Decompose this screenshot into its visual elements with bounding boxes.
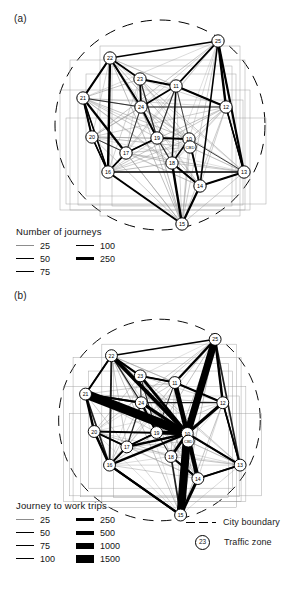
node-label: 19	[154, 430, 160, 436]
legend-traffic-zone: 23 Traffic zone	[186, 535, 280, 549]
traffic-zone-node-24[interactable]: 24	[135, 397, 147, 409]
node-label: 14	[197, 183, 203, 189]
legend-line-swatch	[76, 543, 94, 549]
node-label: 22	[107, 55, 113, 61]
node-label: 24	[138, 400, 144, 406]
traffic-zone-node-30-cbd[interactable]: CBD	[182, 435, 194, 447]
traffic-zone-node-11[interactable]: 11	[170, 80, 182, 92]
legend-line-swatch	[76, 245, 94, 247]
legend-row: 1000	[76, 540, 122, 551]
legend-row: 250	[76, 514, 122, 525]
legend-value: 25	[40, 515, 62, 525]
traffic-zone-node-13[interactable]: 13	[238, 166, 250, 178]
traffic-zone-node-14[interactable]: 14	[194, 180, 206, 192]
traffic-zone-node-20[interactable]: 20	[88, 426, 100, 438]
traffic-zone-node-19[interactable]: 19	[151, 132, 163, 144]
traffic-zone-icon: 23	[195, 535, 210, 550]
legend-value: 1500	[100, 554, 122, 564]
dashed-line-icon	[186, 522, 216, 523]
traffic-zone-node-21[interactable]: 21	[80, 388, 92, 400]
legend-b-title: Journey to work trips	[16, 500, 122, 511]
node-label: 21	[83, 391, 89, 397]
legend-column: 25050010001500	[76, 514, 122, 564]
traffic-zone-node-17[interactable]: 17	[120, 147, 132, 159]
node-label: 15	[179, 221, 185, 227]
traffic-zone-node-22[interactable]: 22	[106, 350, 118, 362]
legend-shared: City boundary 23 Traffic zone	[186, 515, 280, 549]
traffic-zone-node-25[interactable]: 25	[212, 35, 224, 47]
legend-value: 250	[100, 254, 122, 264]
traffic-zone-node-15[interactable]: 15	[175, 509, 187, 521]
panel-a: (a) 25222311211224201910171816131415CBD …	[0, 0, 293, 272]
traffic-zone-node-16[interactable]: 16	[104, 459, 116, 471]
legend-row: 100	[76, 240, 122, 251]
traffic-zone-label: Traffic zone	[224, 537, 272, 547]
medium-flow-edges	[83, 41, 244, 224]
node-label: 11	[173, 83, 179, 89]
legend-line-swatch	[76, 531, 94, 535]
cbd-label: CBD	[186, 145, 195, 150]
traffic-zone-node-18[interactable]: 18	[166, 157, 178, 169]
traffic-zone-node-24[interactable]: 24	[135, 101, 147, 113]
node-label: 14	[195, 476, 201, 482]
node-label: 18	[169, 160, 175, 166]
legend-value: 100	[40, 554, 62, 564]
traffic-zone-node-11[interactable]: 11	[169, 377, 181, 389]
legend-row: 250	[76, 253, 122, 264]
traffic-zone-node-23[interactable]: 23	[134, 73, 146, 85]
legend-value: 75	[40, 541, 62, 551]
traffic-zone-node-12[interactable]: 12	[217, 397, 229, 409]
traffic-zone-node-17[interactable]: 17	[121, 441, 133, 453]
panel-b: (b) 25222311211224201910171816131415CBD …	[0, 272, 293, 591]
traffic-zone-node-25[interactable]: 25	[209, 333, 221, 345]
legend-city-boundary: City boundary	[186, 515, 280, 529]
node-label: 17	[123, 150, 129, 156]
traffic-zone-node-14[interactable]: 14	[192, 473, 204, 485]
traffic-zone-node-30-cbd[interactable]: CBD	[184, 141, 196, 153]
legend-value: 50	[40, 528, 62, 538]
legend-row: 1500	[76, 553, 122, 564]
legend-row: 25	[16, 514, 62, 525]
heavy-flow-edges	[86, 339, 241, 515]
legend-row: 100	[16, 553, 62, 564]
legend-line-swatch	[16, 258, 34, 259]
cbd-label: CBD	[184, 439, 193, 444]
legend-row: 75	[16, 540, 62, 551]
node-label: 11	[172, 380, 177, 386]
legend-b: Journey to work trips 255075100250500100…	[16, 500, 122, 564]
traffic-zone-node-22[interactable]: 22	[104, 52, 116, 64]
network-diagram-a: 25222311211224201910171816131415CBD	[0, 0, 293, 250]
legend-value: 100	[100, 241, 122, 251]
traffic-zone-node-21[interactable]: 21	[77, 92, 89, 104]
traffic-zone-node-13[interactable]: 13	[234, 459, 246, 471]
legend-value: 1000	[100, 541, 122, 551]
traffic-zone-node-16[interactable]: 16	[102, 166, 114, 178]
traffic-zone-node-20[interactable]: 20	[86, 131, 98, 143]
legend-value: 500	[100, 528, 122, 538]
traffic-zone-node-19[interactable]: 19	[151, 427, 163, 439]
faint-flow-edges	[83, 41, 244, 224]
legend-line-swatch	[76, 555, 94, 563]
legend-a: Number of journeys 255075100250	[16, 226, 122, 277]
legend-row: 500	[76, 527, 122, 538]
heavy-flow-edges	[83, 41, 244, 224]
node-label: 20	[89, 134, 95, 140]
legend-line-swatch	[16, 558, 34, 560]
node-label: 13	[237, 462, 243, 468]
node-label: 12	[223, 104, 229, 110]
node-label: 25	[215, 38, 221, 44]
legend-row: 25	[16, 240, 62, 251]
node-label: 24	[138, 104, 144, 110]
node-label: 19	[154, 135, 160, 141]
node-label: 13	[241, 169, 247, 175]
traffic-zone-node-23[interactable]: 23	[134, 370, 146, 382]
legend-value: 25	[40, 241, 62, 251]
node-label: 16	[107, 462, 113, 468]
traffic-zone-node-12[interactable]: 12	[220, 101, 232, 113]
node-label: 25	[212, 336, 218, 342]
legend-row: 50	[16, 527, 62, 538]
traffic-zone-node-18[interactable]: 18	[165, 451, 177, 463]
city-boundary-label: City boundary	[223, 517, 280, 527]
traffic-zone-node-15[interactable]: 15	[176, 218, 188, 230]
node-label: 20	[91, 429, 97, 435]
